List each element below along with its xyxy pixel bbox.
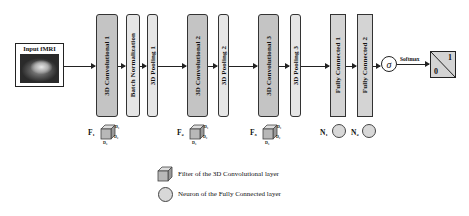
layer-pool1: 3D Pooling 1 — [147, 14, 158, 117]
arrow-conv3-pool3 — [279, 66, 289, 67]
arrow-sigma-output — [397, 64, 429, 65]
brain-mri-image — [20, 54, 59, 83]
layer-conv2-label: 3D Convolutional 2 — [194, 36, 202, 96]
layer-pool2: 3D Pooling 2 — [218, 14, 229, 117]
layer-conv2: 3D Convolutional 2 — [187, 14, 208, 117]
layer-fc1: Fully Connected 1 — [330, 14, 346, 117]
circle-icon — [158, 187, 173, 202]
filter-3-dim-d3: D₃ — [265, 140, 269, 145]
arrow-bn-pool1 — [140, 66, 146, 67]
arrow-pool3-fc1 — [301, 66, 329, 67]
output-box: 1 0 — [430, 51, 456, 78]
input-fmri-label: Input fMRI — [16, 45, 63, 52]
filter-1-label: F₁ — [88, 128, 95, 137]
layer-conv1-label: 3D Convolutional 1 — [103, 36, 111, 96]
circle-icon — [332, 124, 346, 138]
sigma-symbol: σ — [387, 59, 392, 70]
cube-icon — [157, 166, 173, 182]
input-fmri-box: Input fMRI — [15, 43, 64, 87]
filter-1-dim-d2: D₂ — [114, 134, 118, 139]
layer-pool1-label: 3D Pooling 1 — [149, 46, 157, 85]
filter-1-dim-d1: D₁ — [115, 124, 119, 129]
layer-fc2-label: Fully Connected 2 — [361, 37, 369, 93]
filter-2-dim-d1: D₁ — [204, 124, 208, 129]
legend-neuron-text: Neuron of the Fully Connected layer — [178, 190, 281, 198]
filter-1-dim-d3: D₃ — [103, 140, 107, 145]
arrow-fc1-fc2 — [346, 66, 356, 67]
layer-conv1: 3D Convolutional 1 — [96, 14, 118, 117]
layer-pool3: 3D Pooling 3 — [290, 14, 301, 117]
circle-icon — [362, 124, 376, 138]
filter-2-dim-d3: D₃ — [192, 140, 196, 145]
arrow-input-conv1 — [64, 66, 95, 67]
filter-2-dim-d2: D₂ — [203, 134, 207, 139]
arrow-pool2-conv3 — [229, 66, 257, 67]
neuron-1-label: N₁ — [320, 128, 328, 137]
arrow-conv2-pool2 — [208, 66, 217, 67]
output-value-1: 1 — [448, 53, 452, 62]
output-value-0: 0 — [434, 67, 438, 76]
layer-conv3-label: 3D Convolutional 3 — [265, 36, 273, 96]
filter-3-dim-d2: D₂ — [276, 134, 280, 139]
layer-pool2-label: 3D Pooling 2 — [220, 46, 228, 85]
layer-batch-norm: Batch Normalization — [126, 14, 140, 117]
layer-fc2: Fully Connected 2 — [357, 14, 373, 117]
arrow-pool1-conv2 — [158, 66, 186, 67]
layer-pool3-label: 3D Pooling 3 — [292, 46, 300, 85]
filter-2-label: F₂ — [177, 128, 184, 137]
arrow-fc2-sigma — [373, 66, 380, 67]
filter-3-dim-d1: D₁ — [277, 124, 281, 129]
legend-filter-text: Filter of the 3D Convolutional layer — [178, 170, 279, 178]
softmax-label: Softmax — [400, 56, 420, 62]
neuron-2-label: N₂ — [351, 128, 359, 137]
layer-batch-norm-label: Batch Normalization — [129, 33, 137, 97]
layer-conv3: 3D Convolutional 3 — [258, 14, 279, 117]
sigma-activation: σ — [381, 56, 397, 72]
filter-3-label: F₃ — [250, 128, 257, 137]
layer-fc1-label: Fully Connected 1 — [334, 37, 342, 93]
arrow-conv1-bn — [118, 66, 125, 67]
